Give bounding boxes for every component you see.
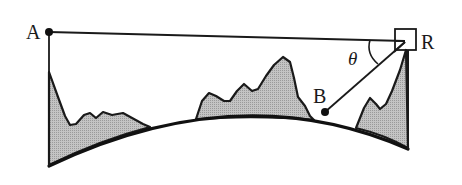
line-a-to-r [49, 32, 405, 41]
left-mountain [49, 72, 150, 165]
diagram-svg [0, 0, 462, 185]
label-theta: θ [348, 49, 357, 68]
label-a: A [26, 22, 40, 42]
diagram-canvas: A B R θ [0, 0, 462, 185]
label-b: B [313, 86, 326, 106]
point-a-dot [45, 28, 53, 36]
receiver-box [395, 29, 416, 50]
middle-mountain [196, 57, 314, 120]
angle-arc [369, 40, 378, 64]
point-b-dot [321, 108, 329, 116]
label-r: R [421, 32, 434, 52]
